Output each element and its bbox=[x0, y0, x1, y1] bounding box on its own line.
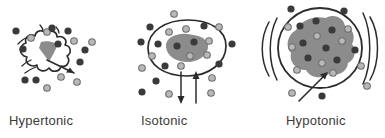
solute-dark bbox=[161, 62, 168, 69]
solute-dark bbox=[351, 46, 358, 53]
caption-isotonic: Isotonic bbox=[128, 112, 256, 130]
solute-light bbox=[74, 79, 81, 86]
solute-dark bbox=[322, 44, 329, 51]
crenation-line-2 bbox=[56, 27, 59, 33]
solute-light bbox=[89, 39, 96, 46]
solute-dark bbox=[215, 60, 222, 67]
solute-dark bbox=[146, 23, 153, 30]
solute-dark bbox=[328, 26, 335, 33]
solute-light bbox=[183, 26, 190, 33]
solute-light bbox=[178, 63, 185, 70]
tonicity-diagram: Hypertonic bbox=[0, 0, 385, 138]
solute-light bbox=[285, 24, 292, 31]
solute-dark bbox=[287, 5, 294, 12]
caption-hypertonic: Hypertonic bbox=[0, 112, 128, 130]
solute-dark bbox=[48, 24, 55, 31]
solute-light bbox=[206, 38, 213, 45]
solute-light bbox=[216, 24, 223, 31]
solute-dark bbox=[304, 54, 311, 61]
solute-dark bbox=[76, 58, 83, 65]
solute-light bbox=[44, 85, 51, 92]
water-out-arrow bbox=[178, 72, 185, 104]
hypertonic-figure bbox=[0, 0, 128, 110]
solute-light bbox=[208, 90, 215, 97]
solute-dark bbox=[54, 40, 61, 47]
solute-dark bbox=[21, 76, 28, 83]
solute-dark bbox=[32, 76, 39, 83]
solute-dark bbox=[81, 46, 88, 53]
solute-light bbox=[166, 91, 173, 98]
solute-light bbox=[187, 53, 194, 60]
solute-dark bbox=[333, 56, 340, 63]
solute-light bbox=[294, 67, 301, 74]
solute-dark bbox=[154, 40, 161, 47]
solute-light bbox=[166, 29, 173, 36]
solute-light bbox=[330, 70, 337, 77]
solute-light bbox=[28, 35, 35, 42]
swell-arc-left-inner bbox=[270, 18, 277, 80]
solute-dark bbox=[318, 92, 325, 99]
solute-light bbox=[358, 63, 365, 70]
solute-dark bbox=[296, 22, 303, 29]
solute-dark bbox=[340, 7, 347, 14]
solute-dark bbox=[19, 45, 26, 52]
solute-dark bbox=[152, 77, 159, 84]
solute-dark bbox=[138, 88, 145, 95]
solute-dark bbox=[312, 17, 319, 24]
solute-light bbox=[171, 11, 178, 18]
solute-light bbox=[314, 33, 321, 40]
solute-light bbox=[289, 44, 296, 51]
solute-dark bbox=[137, 38, 144, 45]
solute-light bbox=[289, 90, 296, 97]
solute-light bbox=[204, 52, 211, 59]
solute-dark bbox=[12, 27, 19, 34]
swell-arc-right-outer bbox=[370, 17, 378, 80]
solute-light bbox=[364, 83, 371, 90]
solute-light bbox=[345, 26, 352, 33]
solute-dark bbox=[64, 27, 71, 34]
solute-dark bbox=[299, 39, 306, 46]
swell-arc-right-inner bbox=[363, 13, 370, 84]
solute-light bbox=[209, 75, 216, 82]
isotonic-figure bbox=[128, 0, 256, 110]
crenation-line-5 bbox=[25, 67, 36, 73]
solute-dark bbox=[173, 42, 180, 49]
solute-dark bbox=[228, 40, 235, 47]
hypotonic-figure bbox=[256, 0, 385, 110]
panel-isotonic: Isotonic bbox=[128, 0, 256, 138]
solute-light bbox=[149, 53, 156, 60]
caption-hypotonic: Hypotonic bbox=[256, 112, 385, 130]
solute-light bbox=[139, 65, 146, 72]
solute-light bbox=[339, 38, 346, 45]
panel-hypertonic: Hypertonic bbox=[0, 0, 128, 138]
swell-arc-left-outer bbox=[262, 22, 269, 76]
solute-light bbox=[58, 74, 65, 81]
solute-dark bbox=[200, 22, 207, 29]
solute-dark bbox=[190, 38, 197, 45]
solute-light bbox=[319, 60, 326, 67]
solute-light bbox=[71, 38, 78, 45]
panel-hypotonic: Hypotonic bbox=[256, 0, 385, 138]
